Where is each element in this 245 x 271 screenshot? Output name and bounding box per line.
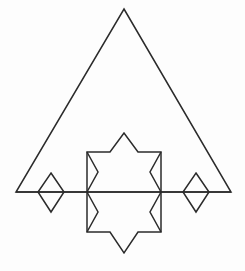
lower-star-half — [87, 192, 161, 253]
upper-star-right-notch — [150, 152, 161, 192]
upper-star-left-notch — [87, 152, 98, 192]
upper-star-half — [87, 133, 161, 192]
lower-star-right-notch — [150, 192, 161, 232]
outer-triangle — [16, 9, 231, 192]
lower-star-left-notch — [87, 192, 98, 232]
line-figure-svg — [0, 0, 245, 271]
figure-canvas — [0, 0, 245, 271]
